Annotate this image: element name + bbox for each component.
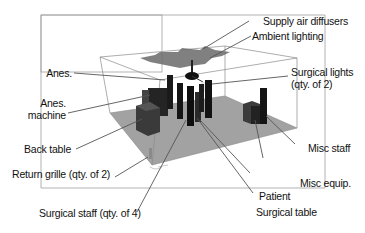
surgical-staff-3 — [205, 80, 212, 118]
surgical-staff-1 — [177, 83, 183, 119]
surgical-staff-2 — [187, 86, 194, 126]
misc-staff — [260, 88, 267, 124]
axis-triad-icon — [150, 165, 168, 169]
label-misc-equip: Misc equip. — [300, 177, 351, 189]
label-anes: Anes. — [30, 67, 72, 79]
label-return-grille: Return grille (qty. of 2) — [12, 168, 110, 180]
surgical-staff-4 — [199, 84, 204, 112]
label-anes-machine-line1: Anes. — [24, 97, 66, 109]
label-surgical-lights-line2: (qty. of 2) — [291, 78, 353, 90]
label-ambient-lighting: Ambient lighting — [252, 30, 324, 42]
label-surgical-lights: Surgical lights (qty. of 2) — [291, 66, 353, 90]
label-surgical-staff: Surgical staff (qty. of 4) — [39, 207, 141, 219]
label-surgical-table: Surgical table — [256, 206, 317, 218]
label-anes-machine: Anes. machine — [24, 97, 66, 121]
label-patient: Patient — [259, 190, 290, 202]
label-surgical-lights-line1: Surgical lights — [291, 66, 353, 78]
label-anes-machine-line2: machine — [24, 109, 66, 121]
anes-staff — [167, 75, 173, 109]
label-supply-air-diffusers: Supply air diffusers — [263, 15, 348, 27]
return-grille — [149, 148, 152, 159]
supply-air-diffusers — [140, 46, 230, 68]
label-back-table: Back table — [24, 143, 71, 155]
label-misc-staff: Misc staff — [308, 142, 350, 154]
